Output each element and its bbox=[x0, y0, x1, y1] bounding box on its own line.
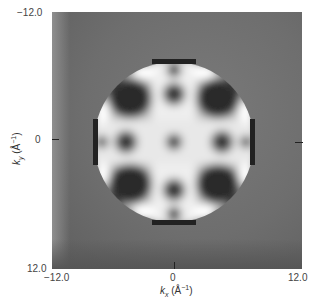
y-tick-label-top: −12.0 bbox=[17, 7, 42, 18]
y-title-sub: y bbox=[17, 157, 24, 161]
x-tick-mark-bottom bbox=[174, 262, 175, 269]
x-title-sub: x bbox=[165, 291, 169, 298]
y-tick-label-mid: 0 bbox=[35, 134, 41, 145]
y-title-exp: −1 bbox=[10, 136, 17, 144]
x-tick-label-right: 12.0 bbox=[288, 272, 307, 283]
x-axis-title: kx (Å−1) bbox=[160, 284, 193, 298]
y-axis-title: ky (Å−1) bbox=[10, 132, 24, 165]
y-tick-mark-left bbox=[52, 139, 59, 140]
intensity-map bbox=[52, 12, 302, 269]
y-title-k: k bbox=[11, 160, 22, 165]
y-tick-mark-right bbox=[295, 142, 303, 143]
y-title-close: ) bbox=[11, 132, 22, 135]
x-tick-label-left: −12.0 bbox=[44, 272, 69, 283]
x-title-unit: (Å bbox=[171, 285, 181, 296]
diffraction-pattern bbox=[52, 12, 302, 269]
y-title-unit: (Å bbox=[11, 144, 22, 154]
x-title-close: ) bbox=[189, 285, 192, 296]
x-tick-label-mid: 0 bbox=[170, 272, 176, 283]
